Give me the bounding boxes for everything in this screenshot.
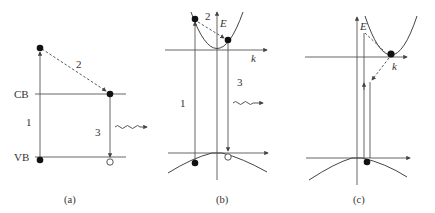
hole-vb (225, 154, 231, 160)
k-axis-label: k (251, 52, 257, 64)
electron-vb (37, 157, 44, 164)
relaxation-arrow-2 (42, 49, 106, 91)
electron-vb (364, 159, 371, 166)
electron-cb-min (387, 50, 394, 57)
electron-excited (192, 16, 199, 23)
valence-band-curve (309, 158, 407, 180)
step-1-label: 1 (180, 97, 186, 109)
panel-a: CB VB 1 2 3 (a) (14, 45, 147, 206)
step-3-label: 3 (237, 76, 243, 88)
vb-label: VB (14, 151, 29, 163)
caption-c: (c) (353, 194, 365, 206)
band-diagram-figure: CB VB 1 2 3 (a) 2 E k 1 3 (b) (0, 0, 435, 213)
panel-b: 2 E k 1 3 (b) (165, 10, 268, 206)
energy-axis-label: E (219, 17, 227, 29)
electron-cb-min (225, 37, 232, 44)
photon-emission-icon (233, 102, 263, 105)
k-axis-label: k (392, 60, 398, 72)
valence-band-curve (168, 153, 267, 173)
step-1-label: 1 (26, 116, 32, 128)
electron-vb (192, 160, 199, 167)
caption-b: (b) (216, 194, 229, 206)
electron-excited (37, 45, 44, 52)
energy-axis-label: E (359, 20, 367, 32)
step-2-label: 2 (205, 10, 211, 22)
hole-vb (107, 159, 113, 165)
phonon-dash-down (372, 58, 389, 80)
photon-emission-icon (115, 126, 147, 129)
phonon-dash-up (365, 33, 385, 52)
caption-a: (a) (64, 194, 76, 206)
panel-c: E k (c) (305, 16, 417, 206)
step-2-label: 2 (76, 58, 82, 70)
step-3-label: 3 (95, 126, 101, 138)
conduction-band-curve (365, 16, 417, 55)
electron-cb-min (107, 91, 114, 98)
cb-label: CB (14, 88, 29, 100)
